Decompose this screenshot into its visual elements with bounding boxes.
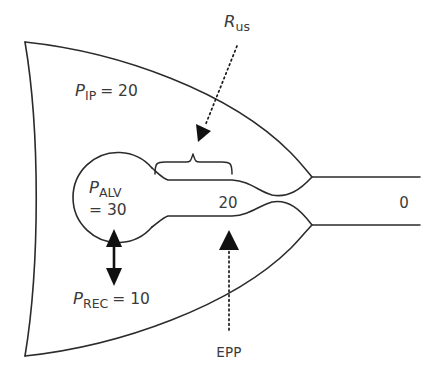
- palv-subscript: ALV: [99, 185, 122, 200]
- pip-value: = 20: [100, 82, 138, 100]
- prec-symbol: P: [73, 289, 83, 308]
- thorax-lower-wall: [25, 225, 312, 356]
- rus-pointer-line: [205, 46, 237, 126]
- recoil-arrow-head-down: [106, 268, 122, 286]
- palv-symbol: P: [89, 178, 99, 197]
- pip-symbol: P: [75, 81, 85, 100]
- airway-upper-wall: [152, 168, 420, 196]
- recoil-arrow-head-up: [106, 229, 122, 247]
- epp-pointer-arrowhead: [219, 230, 239, 250]
- rus-pointer-arrowhead: [196, 124, 211, 142]
- prec-value: = 10: [112, 290, 150, 308]
- prec-subscript: REC: [83, 296, 109, 311]
- equal-pressure-point-label: EPP: [216, 344, 241, 360]
- alveolar-pressure-value: = 30: [89, 201, 127, 219]
- diagram-canvas: Rus PIP= 20 PALV = 30 PREC= 10 20 0 EPP: [0, 0, 435, 377]
- alveolar-pressure-label: PALV: [89, 178, 122, 200]
- airway-pressure-mouth: 0: [399, 194, 409, 212]
- airway-pressure-midpoint: 20: [218, 194, 237, 212]
- thorax-left-wall: [25, 42, 36, 356]
- intrapleural-pressure-label: PIP= 20: [75, 81, 138, 103]
- thorax-upper-wall: [25, 42, 312, 177]
- upstream-resistance-label: Rus: [224, 12, 250, 34]
- upstream-segment-brace: [155, 154, 232, 174]
- recoil-pressure-label: PREC= 10: [73, 289, 150, 311]
- lung-epp-diagram: Rus PIP= 20 PALV = 30 PREC= 10 20 0 EPP: [0, 0, 435, 377]
- pip-subscript: IP: [85, 88, 97, 103]
- rus-subscript: us: [235, 19, 249, 34]
- rus-symbol: R: [224, 12, 235, 31]
- airway-lower-wall: [152, 201, 420, 227]
